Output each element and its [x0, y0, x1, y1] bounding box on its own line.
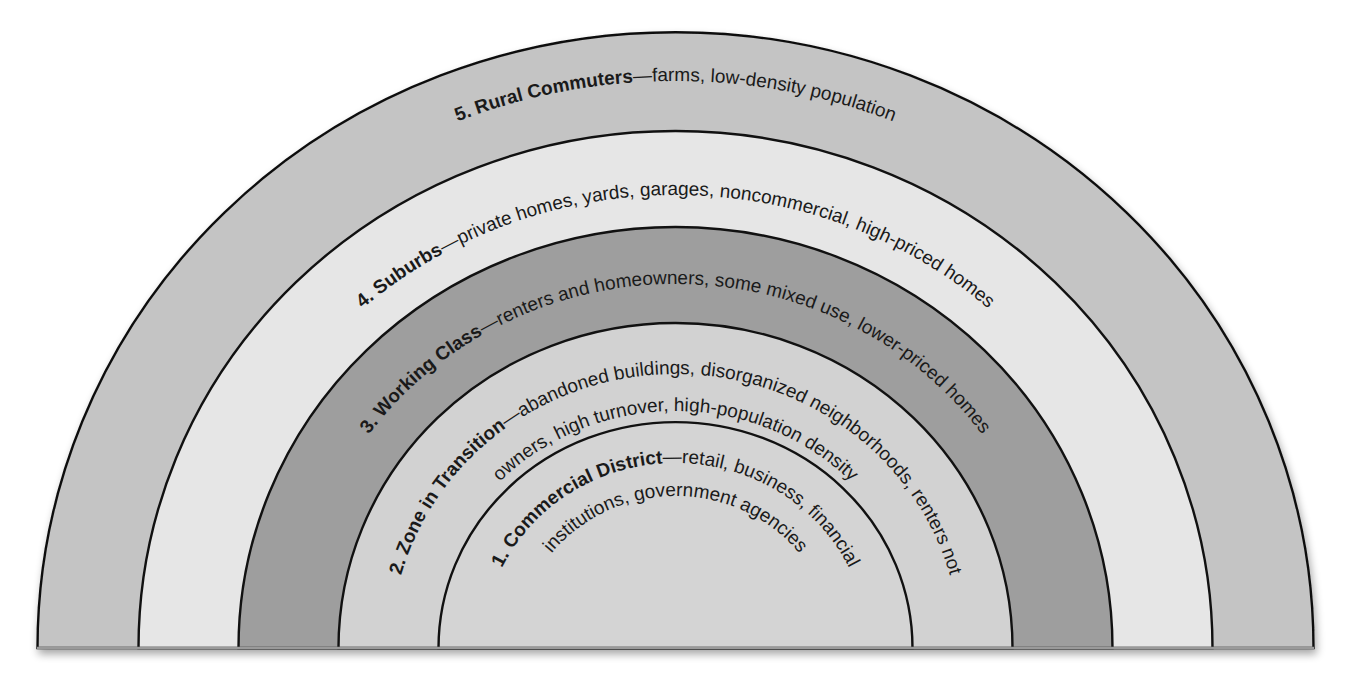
concentric-zone-diagram: 5. Rural Commuters—farms, low-density po…: [0, 0, 1350, 676]
diagram-canvas: 5. Rural Commuters—farms, low-density po…: [0, 0, 1350, 676]
